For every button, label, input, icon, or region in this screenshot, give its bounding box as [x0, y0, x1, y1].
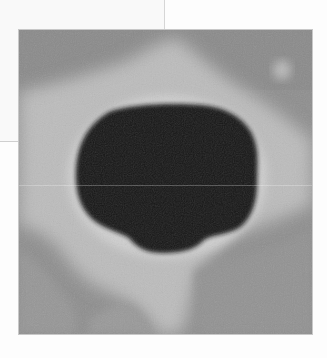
page — [0, 0, 327, 358]
divider-line-vertical — [164, 0, 165, 30]
micrograph-image — [19, 30, 312, 334]
scan-artifact-line — [19, 185, 312, 186]
divider-line-horizontal — [0, 141, 19, 142]
micrograph-graphic — [19, 30, 312, 334]
